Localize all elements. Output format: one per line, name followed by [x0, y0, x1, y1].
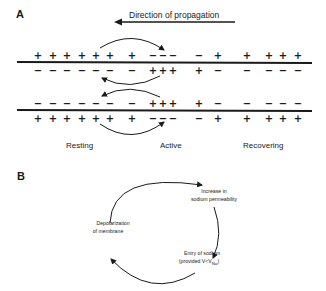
membrane-top	[17, 62, 312, 63]
minus-charge: −	[294, 65, 302, 76]
svg-text:Increase in: Increase in	[201, 188, 226, 194]
minus-charge: −	[149, 113, 157, 124]
plus-charge: +	[78, 113, 86, 124]
plus-charge: +	[49, 50, 57, 61]
minus-charge: −	[279, 65, 287, 76]
cycle-step-depolarization: Depolarization of membrane	[93, 220, 130, 234]
minus-charge: −	[243, 65, 251, 76]
panel-b-label: B	[17, 170, 25, 182]
plus-charge: +	[106, 113, 114, 124]
state-recovering: Recovering	[243, 141, 283, 150]
plus-charge: +	[243, 113, 251, 124]
plus-charge: +	[265, 50, 273, 61]
minus-charge: −	[265, 65, 273, 76]
minus-charge: −	[265, 98, 273, 109]
minus-charge: −	[92, 98, 100, 109]
svg-text:of membrane: of membrane	[93, 228, 124, 234]
minus-charge: −	[243, 98, 251, 109]
charges-bottom-outside: +++++++−−−−+++++	[34, 113, 302, 124]
svg-text:(provided V<VNa): (provided V<VNa)	[179, 258, 220, 266]
cycle-step-permeability: Increase in sodium permeability	[191, 188, 238, 202]
direction-label: Direction of propagation	[129, 10, 220, 20]
cycle-step-sodium-entry: Entry of sodium (provided V<VNa)	[179, 250, 220, 266]
charges-bottom-inside: −−−−−−−++++−−−−−	[34, 98, 302, 109]
minus-charge: −	[34, 65, 42, 76]
minus-charge: −	[49, 98, 57, 109]
svg-text:sodium permeability: sodium permeability	[191, 196, 238, 202]
minus-charge: −	[214, 65, 222, 76]
plus-charge: +	[78, 50, 86, 61]
plus-charge: +	[34, 113, 42, 124]
plus-charge: +	[106, 50, 114, 61]
svg-text:Entry of sodium: Entry of sodium	[184, 250, 220, 256]
minus-charge: −	[63, 98, 71, 109]
plus-charge: +	[195, 65, 203, 76]
plus-charge: +	[214, 50, 222, 61]
minus-charge: −	[106, 98, 114, 109]
minus-charge: −	[294, 98, 302, 109]
diagram-canvas: A Direction of propagation +++++++−−−−++…	[0, 0, 326, 291]
minus-charge: −	[195, 113, 203, 124]
minus-charge: −	[169, 113, 177, 124]
minus-charge: −	[92, 65, 100, 76]
plus-charge: +	[34, 50, 42, 61]
plus-charge: +	[243, 50, 251, 61]
plus-charge: +	[159, 98, 167, 109]
svg-text:Depolarization: Depolarization	[96, 220, 129, 226]
plus-charge: +	[265, 113, 273, 124]
plus-charge: +	[279, 50, 287, 61]
minus-charge: −	[106, 65, 114, 76]
minus-charge: −	[128, 65, 136, 76]
minus-charge: −	[159, 50, 167, 61]
plus-charge: +	[294, 50, 302, 61]
minus-charge: −	[78, 65, 86, 76]
state-active: Active	[160, 141, 182, 150]
minus-charge: −	[279, 98, 287, 109]
plus-charge: +	[214, 113, 222, 124]
minus-charge: −	[195, 50, 203, 61]
plus-charge: +	[49, 113, 57, 124]
minus-charge: −	[149, 50, 157, 61]
minus-charge: −	[169, 50, 177, 61]
plus-charge: +	[169, 98, 177, 109]
plus-charge: +	[279, 113, 287, 124]
minus-charge: −	[128, 98, 136, 109]
minus-charge: −	[34, 98, 42, 109]
plus-charge: +	[149, 65, 157, 76]
charges-top-outside: +++++++−−−−+++++	[34, 50, 302, 61]
plus-charge: +	[63, 113, 71, 124]
plus-charge: +	[128, 50, 136, 61]
plus-charge: +	[92, 50, 100, 61]
minus-charge: −	[78, 98, 86, 109]
plus-charge: +	[63, 50, 71, 61]
minus-charge: −	[214, 98, 222, 109]
plus-charge: +	[92, 113, 100, 124]
plus-charge: +	[294, 113, 302, 124]
charges-top-inside: −−−−−−−++++−−−−−	[34, 65, 302, 76]
panel-a-label: A	[16, 8, 24, 20]
membrane-bottom	[17, 110, 312, 111]
plus-charge: +	[159, 65, 167, 76]
plus-charge: +	[128, 113, 136, 124]
plus-charge: +	[169, 65, 177, 76]
plus-charge: +	[195, 98, 203, 109]
minus-charge: −	[63, 65, 71, 76]
minus-charge: −	[49, 65, 57, 76]
plus-charge: +	[149, 98, 157, 109]
state-resting: Resting	[66, 141, 93, 150]
